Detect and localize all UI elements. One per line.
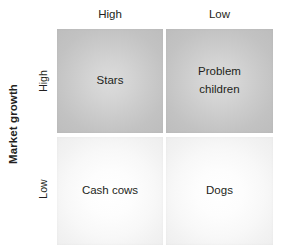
quadrant-problem-children-label: Problemchildren [194,63,245,99]
x-tick-low: Low [166,4,273,25]
quadrant-problem-children: Problemchildren [166,29,273,133]
quadrant-grid: Stars Problemchildren Cash cows Dogs [57,29,273,245]
quadrant-cash-cows-label: Cash cows [78,182,142,200]
y-tick-high-label: High [37,70,49,92]
quadrant-stars: Stars [57,29,163,133]
quadrant-dogs-label: Dogs [202,182,237,200]
y-tick-low: Low [30,137,56,241]
y-axis-title-label: Market growth [7,84,19,164]
y-axis-title: Market growth [0,0,26,248]
y-tick-high: High [30,29,56,133]
y-tick-low-label: Low [37,179,49,198]
quadrant-stars-label: Stars [93,72,128,90]
quadrant-dogs: Dogs [166,137,273,245]
quadrant-problem-children-label-line2: children [199,83,239,95]
quadrant-cash-cows: Cash cows [57,137,163,245]
quadrant-problem-children-label-line1: Problem [198,65,241,77]
bcg-matrix-figure: Market growth High Low High Low Stars Pr… [0,0,283,248]
x-tick-high: High [57,4,163,25]
